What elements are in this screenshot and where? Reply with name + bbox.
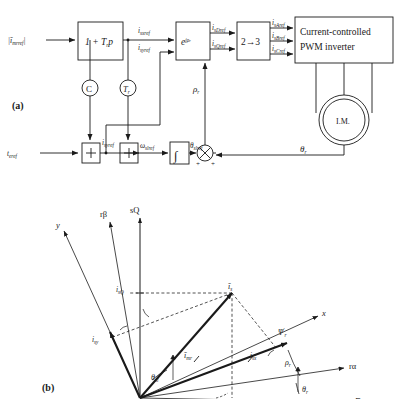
panel-b-label: (b): [42, 382, 54, 393]
block-integrator: [170, 142, 189, 164]
vector-psir: [140, 343, 287, 398]
angle-label-rho-r: ρr: [284, 358, 292, 368]
arc-right-isx: [268, 350, 274, 356]
label-torque-ref: teref: [7, 150, 18, 159]
label-inverter-line2: PWM inverter: [300, 42, 355, 52]
label-isyref-top: isyref: [138, 44, 151, 53]
angle-label-theta-sl: θsl: [151, 373, 159, 383]
label-isyref-bottom: isyref: [102, 139, 115, 148]
axis-line-ralpha: [140, 368, 344, 398]
dash-isy-proj: [113, 293, 232, 337]
vector-label-psir: Ψ′r: [278, 327, 287, 337]
label-block-lead: 1 + Trp: [85, 37, 113, 48]
label-isxref: isxref: [138, 27, 151, 36]
label-integrator: ∫: [173, 148, 179, 164]
angle-label-theta-r: θr: [302, 385, 309, 395]
vector-label-imr: īmr: [184, 351, 193, 361]
figure-page: |īmrref| 1 + Trp isxref isyref ejρr isDr…: [0, 0, 398, 399]
vector-is: [140, 293, 232, 398]
component-label-isx: isx: [250, 351, 257, 361]
label-isQref: isQref: [212, 40, 227, 49]
arc-right-isy: [120, 326, 127, 330]
label-flux-ref: |īmrref|: [8, 36, 26, 46]
component-label-isy: isy: [92, 335, 99, 345]
label-rho-r: ρr: [192, 84, 200, 95]
tick-imr: [194, 356, 199, 362]
label-theta-r-feedback: θr: [300, 144, 307, 155]
label-isCref: isCref: [272, 45, 287, 54]
axis-label-ralpha: rα: [349, 361, 357, 371]
label-inverter-line1: Current-controlled: [300, 27, 371, 37]
component-label-isq: isQ: [116, 285, 124, 295]
label-isBref: isBref: [272, 32, 286, 41]
label-block-2to3: 2→3: [241, 37, 260, 47]
label-motor: I.M.: [336, 117, 350, 126]
vector-label-is: īs: [228, 282, 232, 292]
axis-label-sq: sQ: [130, 205, 139, 215]
vector-isy: [110, 332, 140, 398]
arc-theta-r: [296, 383, 299, 394]
dash-isx-proj: [232, 293, 277, 349]
sign-plus-left: +: [196, 160, 200, 168]
label-theta-slref: θslref: [190, 142, 204, 151]
block-diagram-svg: |īmrref| 1 + Trp isxref isyref ejρr isDr…: [0, 0, 398, 182]
arc-origin-dashed: [216, 393, 228, 398]
panel-a-label: (a): [12, 100, 24, 111]
label-block-rotator: ejρr: [181, 37, 191, 48]
label-omega-slref: ωslref: [140, 142, 156, 151]
sign-plus-right: +: [211, 160, 215, 168]
arc-right-isq: [143, 309, 149, 317]
label-isDref: isDref: [212, 24, 227, 33]
axis-label-x: x: [321, 308, 326, 318]
label-gain-tr: Tr: [123, 84, 131, 95]
vector-diagram-svg: y rβ sQ x rα sD īs īmr Ψ′r isQ isy isx θ…: [0, 180, 398, 399]
axis-line-rbeta: [110, 222, 140, 398]
axis-label-y: y: [55, 220, 60, 230]
label-gain-c: C: [86, 84, 92, 94]
axis-label-rbeta: rβ: [100, 209, 107, 219]
label-isAref: isAref: [272, 19, 286, 28]
axis-line-x: [140, 316, 318, 398]
block-inverter: [295, 17, 393, 63]
